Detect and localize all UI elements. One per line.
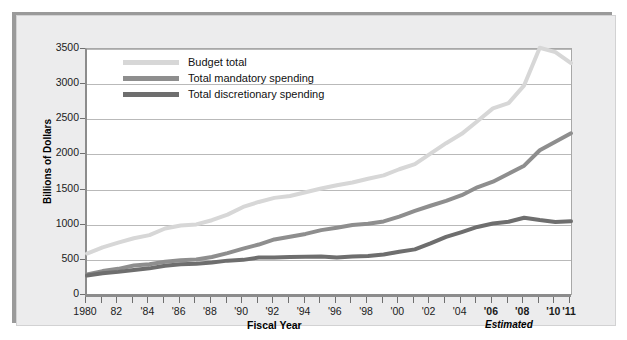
- chart-legend: Budget totalTotal mandatory spendingTota…: [123, 54, 324, 102]
- series-line: [87, 218, 571, 276]
- x-tick-mark: [85, 297, 86, 303]
- chart-figure: Billions of Dollars 05001000150020002500…: [0, 0, 627, 340]
- y-tick-label: 500: [37, 252, 79, 264]
- y-tick-label: 0: [37, 287, 79, 299]
- x-tick-mark: [366, 297, 367, 303]
- x-tick-mark: [210, 297, 211, 303]
- y-tick-label: 1000: [37, 217, 79, 229]
- x-tick-mark: [428, 297, 429, 303]
- x-tick-mark: [194, 297, 195, 303]
- x-tick-label: '11: [549, 305, 589, 317]
- x-axis-title: Fiscal Year: [247, 319, 302, 331]
- x-tick-mark: [241, 297, 242, 303]
- x-tick-mark: [413, 297, 414, 303]
- x-tick-mark: [147, 297, 148, 303]
- x-tick-mark: [475, 297, 476, 303]
- x-tick-mark: [522, 297, 523, 303]
- legend-item: Budget total: [123, 54, 324, 70]
- x-tick-mark: [569, 297, 570, 303]
- legend-label: Budget total: [188, 56, 247, 68]
- legend-swatch: [123, 60, 179, 65]
- legend-swatch: [123, 76, 179, 81]
- x-tick-mark: [179, 297, 180, 303]
- series-line: [87, 133, 571, 274]
- x-tick-mark: [335, 297, 336, 303]
- legend-item: Total mandatory spending: [123, 70, 324, 86]
- y-tick-label: 2000: [37, 146, 79, 158]
- x-tick-mark: [116, 297, 117, 303]
- x-tick-mark: [226, 297, 227, 303]
- x-tick-mark: [272, 297, 273, 303]
- legend-swatch: [123, 92, 179, 97]
- x-tick-mark: [319, 297, 320, 303]
- x-tick-mark: [101, 297, 102, 303]
- legend-label: Total discretionary spending: [188, 88, 324, 100]
- x-tick-mark: [257, 297, 258, 303]
- x-tick-mark: [507, 297, 508, 303]
- x-tick-mark: [491, 297, 492, 303]
- x-tick-mark: [553, 297, 554, 303]
- y-tick-label: 3500: [37, 41, 79, 53]
- x-tick-mark: [382, 297, 383, 303]
- x-tick-mark: [288, 297, 289, 303]
- x-tick-mark: [132, 297, 133, 303]
- legend-label: Total mandatory spending: [188, 72, 314, 84]
- x-tick-mark: [163, 297, 164, 303]
- y-tick-label: 3000: [37, 76, 79, 88]
- x-tick-mark: [397, 297, 398, 303]
- y-tick-label: 1500: [37, 182, 79, 194]
- x-tick-mark: [444, 297, 445, 303]
- x-tick-mark: [304, 297, 305, 303]
- x-axis-line: [85, 294, 571, 297]
- estimated-annotation: Estimated: [485, 319, 533, 330]
- x-tick-mark: [350, 297, 351, 303]
- x-tick-mark: [460, 297, 461, 303]
- legend-item: Total discretionary spending: [123, 86, 324, 102]
- x-tick-mark: [538, 297, 539, 303]
- y-tick-label: 2500: [37, 111, 79, 123]
- chart-panel: Billions of Dollars 05001000150020002500…: [16, 15, 616, 326]
